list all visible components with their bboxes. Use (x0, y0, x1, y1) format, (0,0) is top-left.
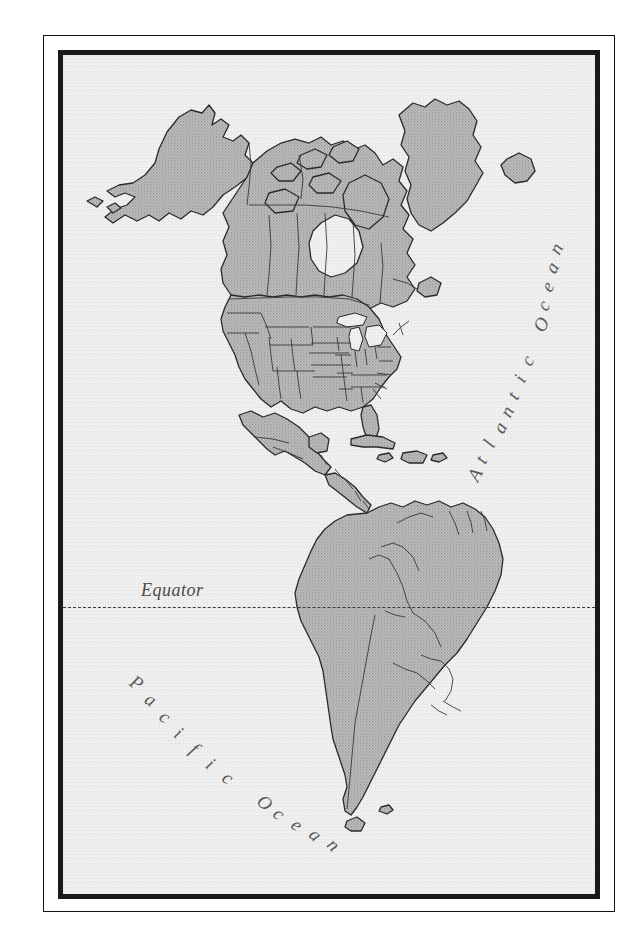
landmass-hispaniola (401, 451, 427, 463)
equator-line (63, 607, 595, 608)
inner-frame-border: Equator AtlanticOcean PacificOcean (58, 50, 600, 899)
americas-map-graphic (63, 55, 595, 894)
landmass-yucatan (309, 433, 329, 453)
map-page: Equator AtlanticOcean PacificOcean (0, 0, 640, 929)
equator-label: Equator (141, 580, 204, 601)
map-plate: Equator AtlanticOcean PacificOcean (63, 55, 595, 894)
